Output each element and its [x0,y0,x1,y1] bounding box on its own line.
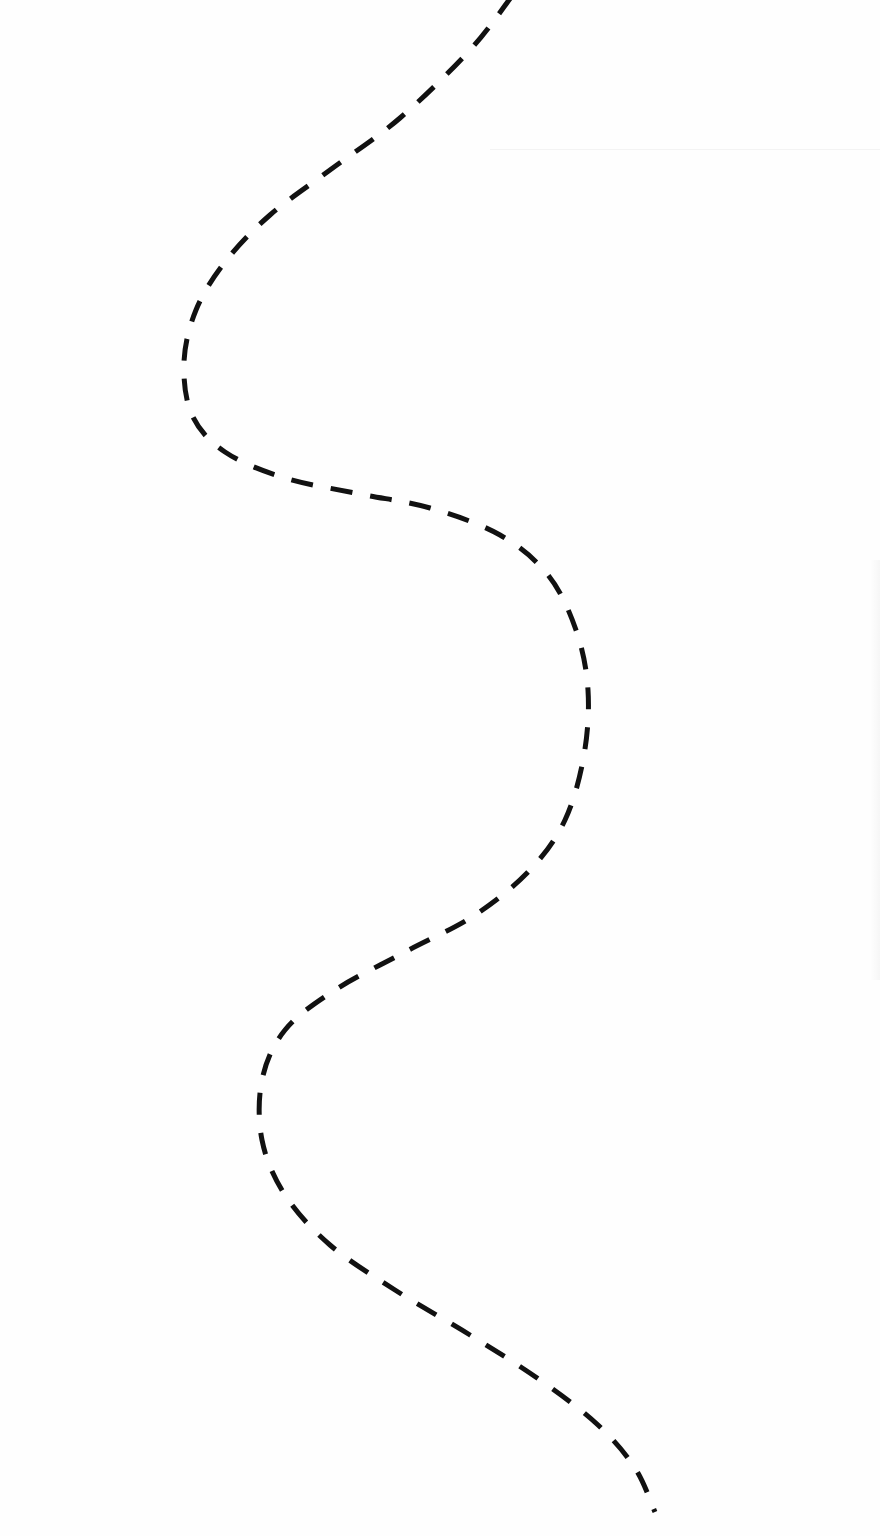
path-layer [0,0,880,1536]
dashed-wavy-path [184,0,655,1512]
drawing-canvas [0,0,880,1536]
